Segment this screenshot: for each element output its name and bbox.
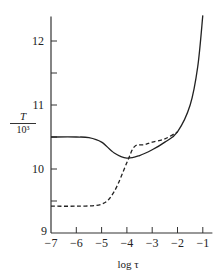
x-tick-label: −1 <box>196 236 209 250</box>
dashed-curve <box>51 132 178 206</box>
x-tick-label: −4 <box>121 236 134 250</box>
y-tick-label: 10 <box>32 162 44 176</box>
x-tick-label: −7 <box>45 236 58 250</box>
y-axis-label-denominator: 10³ <box>10 124 36 135</box>
x-tick-label: −3 <box>146 236 159 250</box>
chart-canvas: 9101112−7−6−5−4−3−2−1 log τ <box>0 0 220 276</box>
data-lines <box>51 15 203 206</box>
axes: 9101112−7−6−5−4−3−2−1 <box>32 16 212 250</box>
x-tick-label: −5 <box>95 236 108 250</box>
y-tick-label: 11 <box>32 98 44 112</box>
x-axis-label: log τ <box>117 258 139 270</box>
solid-curve <box>51 15 203 158</box>
x-tick-label: −2 <box>171 236 184 250</box>
x-tick-label: −6 <box>70 236 83 250</box>
y-axis-label: T 10³ <box>10 111 36 135</box>
y-tick-label: 12 <box>32 34 44 48</box>
y-axis-label-numerator: T <box>10 111 36 124</box>
